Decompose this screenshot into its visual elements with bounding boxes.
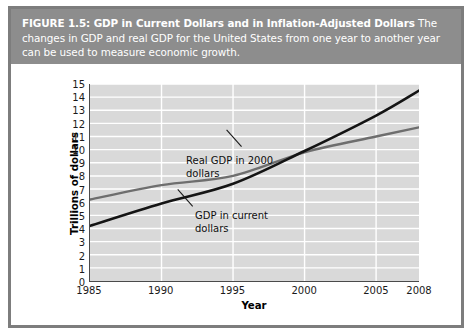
- x-axis-tick-labels: 198519901995200020052008: [89, 285, 429, 301]
- plot-area: Real GDP in 2000 dollars GDP in current …: [89, 84, 419, 282]
- y-tick-label: 9: [63, 158, 85, 169]
- y-axis-label-wrapper: Trillions of dollars: [25, 116, 47, 246]
- y-tick-label: 1: [63, 263, 85, 274]
- figure-root: FIGURE 1.5: GDP in Current Dollars and i…: [0, 0, 472, 336]
- y-tick-label: 11: [63, 131, 85, 142]
- x-tick-label: 1985: [76, 285, 101, 296]
- annotation-real-gdp: Real GDP in 2000 dollars: [186, 154, 273, 180]
- x-tick-label: 2005: [363, 285, 388, 296]
- x-tick-label: 2000: [291, 285, 316, 296]
- x-tick-label: 1995: [220, 285, 245, 296]
- caption-lead: FIGURE 1.5: GDP in Current Dollars and i…: [22, 17, 415, 29]
- y-tick-label: 14: [63, 92, 85, 103]
- x-axis-label: Year: [89, 300, 419, 311]
- y-tick-label: 8: [63, 171, 85, 182]
- y-tick-label: 6: [63, 197, 85, 208]
- x-tick-label: 2008: [406, 285, 431, 296]
- y-tick-label: 4: [63, 224, 85, 235]
- y-tick-label: 7: [63, 184, 85, 195]
- annotation-current-gdp: GDP in current dollars: [195, 209, 268, 235]
- chart-card: Trillions of dollars 0123456789101112131…: [11, 66, 461, 325]
- leader-line-real-gdp: [227, 130, 242, 147]
- y-axis-tick-labels: 0123456789101112131415: [59, 84, 85, 282]
- y-tick-label: 2: [63, 250, 85, 261]
- y-tick-label: 3: [63, 237, 85, 248]
- y-tick-label: 15: [63, 79, 85, 90]
- y-tick-label: 5: [63, 211, 85, 222]
- figure-caption-band: FIGURE 1.5: GDP in Current Dollars and i…: [11, 9, 461, 64]
- x-tick-label: 1990: [148, 285, 173, 296]
- y-tick-label: 12: [63, 118, 85, 129]
- y-tick-label: 13: [63, 105, 85, 116]
- figure-caption-text: FIGURE 1.5: GDP in Current Dollars and i…: [22, 16, 451, 60]
- gridlines-group: [90, 84, 419, 281]
- series-svg: [90, 84, 419, 281]
- y-tick-label: 10: [63, 145, 85, 156]
